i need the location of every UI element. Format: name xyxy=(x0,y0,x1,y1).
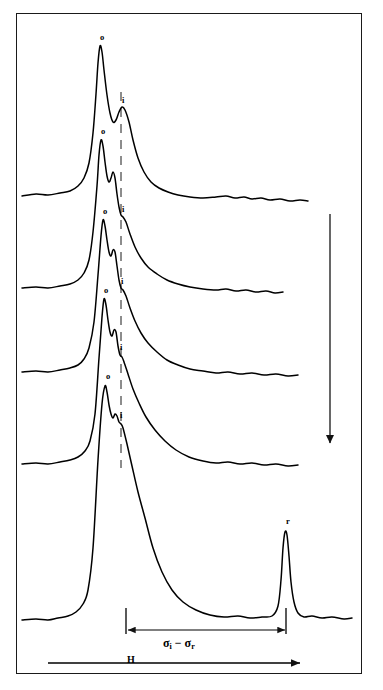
plot-frame xyxy=(16,13,362,674)
minus-symbol: − xyxy=(175,636,185,650)
peak-label-i-10: i xyxy=(120,411,122,420)
peak-label-o-3: o xyxy=(101,127,105,136)
peak-label-r-11: r xyxy=(286,517,290,526)
sigma-i-symbol: σi xyxy=(163,636,172,650)
sigma-r-symbol: σr xyxy=(185,636,195,650)
peak-label-o-9: o xyxy=(106,372,110,381)
figure-root: oioioioioir σi − σr H xyxy=(0,0,383,690)
peak-label-i-4: i xyxy=(122,205,124,214)
sigma-difference-label: σi − σr xyxy=(163,637,195,651)
peak-label-o-7: o xyxy=(104,286,108,295)
peak-label-o-5: o xyxy=(103,207,107,216)
peak-label-i-6: i xyxy=(121,277,123,286)
field-axis-label: H xyxy=(127,655,135,665)
peak-label-i-8: i xyxy=(120,343,122,352)
peak-label-o-1: o xyxy=(100,33,104,42)
peak-label-i-2: i xyxy=(122,96,124,105)
